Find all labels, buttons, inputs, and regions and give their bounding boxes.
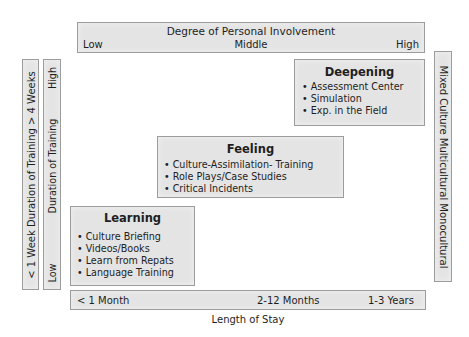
length-of-stay-title: Length of Stay	[70, 315, 426, 325]
length-of-stay-axis-banner: < 1 Month 2-12 Months 1-3 Years	[70, 290, 426, 310]
involvement-axis-banner: Degree of Personal Involvement Low Middl…	[77, 22, 425, 53]
list-item: Videos/Books	[77, 243, 194, 255]
training-duration-weeks-label: < 1 Week Duration of Training > 4 Weeks	[25, 71, 36, 278]
list-item: Culture-Assimilation- Training	[164, 159, 343, 171]
training-duration-low-label: Low	[47, 264, 58, 283]
list-item: Simulation	[302, 93, 424, 105]
training-duration-title: Duration of Training	[47, 119, 58, 214]
list-item: Exp. in the Field	[302, 105, 424, 117]
stay-tick-short: < 1 Month	[77, 296, 129, 306]
stay-tick-medium: 2-12 Months	[257, 296, 319, 306]
feeling-title: Feeling	[158, 142, 343, 156]
involvement-axis-title: Degree of Personal Involvement	[78, 26, 424, 37]
learning-box: Learning Culture Briefing Videos/Books L…	[70, 206, 195, 286]
list-item: Culture Briefing	[77, 231, 194, 243]
list-item: Assessment Center	[302, 81, 424, 93]
involvement-middle-label: Middle	[78, 40, 424, 50]
training-duration-axis: High Duration of Training Low	[43, 59, 61, 290]
training-duration-high-label: High	[47, 67, 58, 89]
training-duration-weeks-axis: < 1 Week Duration of Training > 4 Weeks	[22, 59, 39, 290]
deepening-title: Deepening	[295, 65, 424, 79]
list-item: Role Plays/Case Studies	[164, 171, 343, 183]
culture-axis: Mixed Culture Multicultural Monocultural	[434, 51, 452, 282]
list-item: Critical Incidents	[164, 183, 343, 195]
learning-list: Culture Briefing Videos/Books Learn from…	[77, 231, 194, 279]
culture-axis-label: Mixed Culture Multicultural Monocultural	[438, 65, 449, 268]
involvement-high-label: High	[396, 40, 419, 50]
feeling-list: Culture-Assimilation- Training Role Play…	[164, 159, 343, 195]
stay-tick-long: 1-3 Years	[368, 296, 414, 306]
list-item: Language Training	[77, 267, 194, 279]
learning-title: Learning	[71, 211, 194, 225]
list-item: Learn from Repats	[77, 255, 194, 267]
feeling-box: Feeling Culture-Assimilation- Training R…	[157, 136, 344, 198]
deepening-box: Deepening Assessment Center Simulation E…	[294, 59, 425, 126]
deepening-list: Assessment Center Simulation Exp. in the…	[302, 81, 424, 117]
